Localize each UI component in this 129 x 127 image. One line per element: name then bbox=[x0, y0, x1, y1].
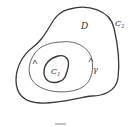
contour-gamma bbox=[29, 42, 92, 92]
label-region: D bbox=[80, 21, 88, 31]
label-outer-curve: C2 bbox=[115, 19, 124, 29]
arrow-icon bbox=[33, 60, 37, 64]
arrow-icon bbox=[89, 58, 93, 62]
region-diagram: D C2 C1 γ bbox=[0, 0, 129, 127]
label-contour: γ bbox=[93, 65, 98, 74]
outer-curve-c2 bbox=[16, 7, 119, 103]
label-inner-curve: C1 bbox=[51, 67, 60, 77]
